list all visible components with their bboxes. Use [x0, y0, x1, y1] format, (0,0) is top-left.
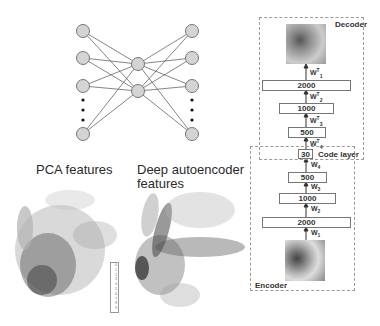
- output-node: [186, 80, 199, 93]
- deep-scatter: [135, 192, 245, 307]
- output-node: [186, 128, 199, 141]
- hidden-node: [132, 85, 145, 98]
- encoder-layer-500: 500: [288, 172, 327, 183]
- digit-legend: 0 1 2 3 4 5 6 7 8 9: [110, 262, 119, 313]
- decoder-layer-2000: 2000: [262, 80, 351, 91]
- input-node: [77, 52, 90, 65]
- pca-scatter: [15, 190, 117, 297]
- encoder-layer-1000: 1000: [279, 193, 336, 204]
- encoder-label: Encoder: [255, 281, 287, 290]
- weight-w3: W3: [311, 183, 320, 192]
- input-node: [77, 128, 90, 141]
- weight-w1: W1: [311, 229, 320, 238]
- decoder-layer-500: 500: [288, 127, 326, 138]
- output-node: [186, 25, 199, 38]
- output-node: [186, 52, 199, 65]
- weight-w4: W4: [311, 161, 320, 170]
- code-layer-30: 30: [298, 149, 313, 159]
- weight-w1t: WT1: [310, 67, 322, 79]
- deep-title-line2: features: [137, 177, 184, 190]
- decoder-layer-1000: 1000: [279, 103, 334, 114]
- ellipsis-dots: [81, 98, 193, 121]
- weight-w3t: WT3: [310, 115, 322, 127]
- weight-w4t: WT4: [310, 138, 322, 150]
- weight-w2: W2: [311, 205, 320, 214]
- input-face-image: [285, 240, 325, 281]
- legend-entry: 9: [111, 306, 117, 311]
- encoder-layer-2000: 2000: [262, 217, 351, 228]
- pca-title: PCA features: [36, 163, 113, 176]
- deep-title-line1: Deep autoencoder: [137, 163, 244, 176]
- weight-w2t: WT2: [310, 91, 322, 103]
- reconstructed-face-image: [286, 24, 326, 64]
- input-node: [77, 25, 90, 38]
- decoder-label: Decoder: [335, 20, 367, 29]
- code-layer-label: Code layer: [318, 150, 359, 159]
- input-node: [77, 80, 90, 93]
- hidden-node: [132, 58, 145, 71]
